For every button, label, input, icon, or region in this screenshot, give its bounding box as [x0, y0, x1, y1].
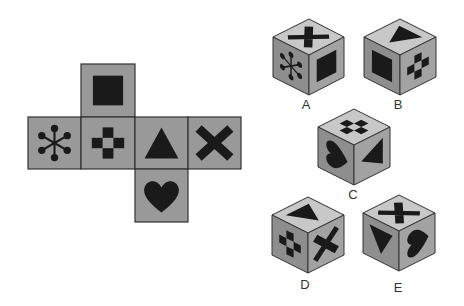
net-face-center [81, 117, 135, 169]
option-label-a: A [302, 97, 311, 112]
option-label-d: D [300, 277, 309, 292]
cube-option-b[interactable] [364, 19, 436, 95]
square-icon [93, 76, 123, 106]
cube-puzzle-diagram [0, 0, 464, 306]
cube-option-d[interactable] [272, 197, 344, 273]
option-label-c: C [348, 187, 357, 202]
cube-option-c[interactable] [318, 109, 390, 185]
cube-option-a[interactable] [273, 19, 344, 95]
option-label-b: B [394, 97, 403, 112]
cube-option-e[interactable] [363, 195, 435, 271]
option-label-e: E [394, 280, 403, 295]
